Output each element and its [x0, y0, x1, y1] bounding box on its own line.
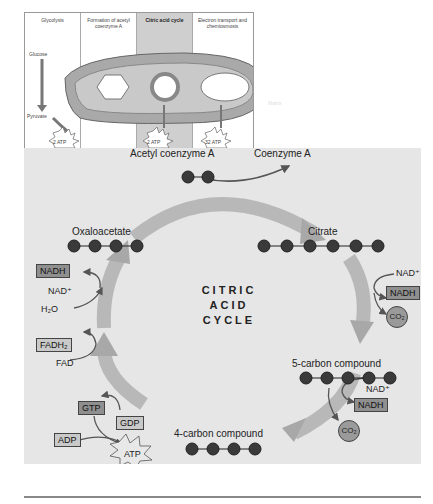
title-line: CYCLE	[184, 313, 274, 328]
coenzyme-a-label: Coenzyme A	[254, 148, 311, 159]
title-line: ACID	[184, 298, 274, 313]
water-label: H₂O	[41, 304, 58, 314]
overview-panel: Glycolysis Formation of acetyl coenzyme …	[24, 12, 254, 149]
atp-yield-glycolysis: 2 ATP	[53, 139, 66, 145]
oxaloacetate-label: Oxaloacetate	[72, 226, 131, 237]
nadh-box-3: NADH	[36, 264, 70, 278]
fad-label: FAD	[56, 358, 74, 368]
nad-plus-label-3: NAD⁺	[48, 286, 72, 296]
gdp-box: GDP	[116, 416, 144, 430]
fadh2-box: FADH₂	[36, 338, 72, 352]
nad-plus-label-2: NAD⁺	[366, 384, 390, 394]
co2-circle-1: CO₂	[386, 306, 408, 328]
citrate-label: Citrate	[308, 226, 337, 237]
atp-yield-electron-transport: 32 ATP	[205, 139, 221, 145]
mitochondrion-icon	[25, 13, 253, 148]
acetyl-coa-label: Acetyl coenzyme A	[130, 148, 214, 159]
nad-plus-label-1: NAD⁺	[396, 268, 420, 278]
cycle-title: CITRIC ACID CYCLE	[184, 283, 274, 328]
co2-circle-2: CO₂	[338, 420, 360, 442]
divider	[24, 496, 421, 498]
matrix-label: Matrix	[268, 100, 282, 106]
nadh-box-2: NADH	[354, 398, 388, 412]
four-carbon-label: 4-carbon compound	[174, 428, 263, 439]
adp-box: ADP	[54, 433, 81, 447]
citric-acid-cycle-panel: Acetyl coenzyme A Coenzyme A Oxaloacetat…	[24, 148, 421, 464]
gtp-box: GTP	[78, 401, 105, 415]
five-carbon-label: 5-carbon compound	[292, 358, 381, 369]
atp-yield-citric-acid: 2 ATP	[147, 139, 160, 145]
atp-label: ATP	[124, 449, 141, 459]
nadh-box-1: NADH	[386, 286, 420, 300]
title-line: CITRIC	[184, 283, 274, 298]
